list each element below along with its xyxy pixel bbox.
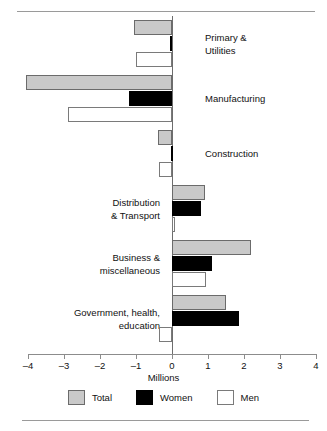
bar-group (0, 130, 327, 177)
x-axis-tick-label: 4 (313, 360, 318, 371)
legend-item: Women (136, 390, 193, 405)
x-axis-tick (172, 354, 173, 359)
bar-group (0, 20, 327, 67)
legend-swatch-men (217, 390, 234, 405)
x-axis-tick-label: 1 (205, 360, 210, 371)
x-axis-tick-label: –3 (59, 360, 70, 371)
bar-men (159, 162, 172, 177)
bar-total (172, 295, 226, 310)
x-axis-tick (244, 354, 245, 359)
bar-group (0, 295, 327, 342)
legend-label: Women (160, 392, 193, 403)
bar-men (136, 52, 172, 67)
bar-men (159, 327, 172, 342)
legend-label: Men (241, 392, 259, 403)
x-axis-tick (64, 354, 65, 359)
bar-total (134, 20, 172, 35)
chart-figure: Primary & UtilitiesManufacturingConstruc… (0, 0, 327, 431)
x-axis-tick (280, 354, 281, 359)
bar-men (68, 107, 172, 122)
x-axis-tick-label: 0 (169, 360, 174, 371)
x-axis-tick (136, 354, 137, 359)
bar-men (172, 272, 206, 287)
bar-women (170, 36, 172, 51)
x-axis-title: Millions (0, 372, 327, 383)
bar-women (129, 91, 172, 106)
bar-women (172, 256, 212, 271)
bar-total (26, 75, 172, 90)
bar-women (171, 146, 173, 161)
bar-group (0, 240, 327, 287)
x-axis-tick (100, 354, 101, 359)
bar-total (172, 185, 205, 200)
chart-legend: TotalWomenMen (0, 390, 327, 405)
bar-women (172, 311, 239, 326)
legend-item: Men (217, 390, 259, 405)
bar-men (172, 217, 175, 232)
legend-swatch-women (136, 390, 153, 405)
bar-group (0, 185, 327, 232)
bar-women (172, 201, 201, 216)
x-axis-tick-label: –1 (131, 360, 142, 371)
legend-label: Total (92, 392, 112, 403)
top-divider-rule (17, 11, 315, 12)
bar-group (0, 75, 327, 122)
x-axis-tick-label: 3 (277, 360, 282, 371)
bar-total (158, 130, 172, 145)
x-axis-tick (28, 354, 29, 359)
plot-area: Primary & UtilitiesManufacturingConstruc… (0, 16, 327, 354)
x-axis-tick-label: –2 (95, 360, 106, 371)
x-axis-tick (208, 354, 209, 359)
x-axis-tick-label: –4 (23, 360, 34, 371)
legend-item: Total (68, 390, 112, 405)
bar-total (172, 240, 251, 255)
legend-swatch-total (68, 390, 85, 405)
x-axis-tick (316, 354, 317, 359)
x-axis-tick-label: 2 (241, 360, 246, 371)
bottom-divider-rule (22, 420, 309, 421)
